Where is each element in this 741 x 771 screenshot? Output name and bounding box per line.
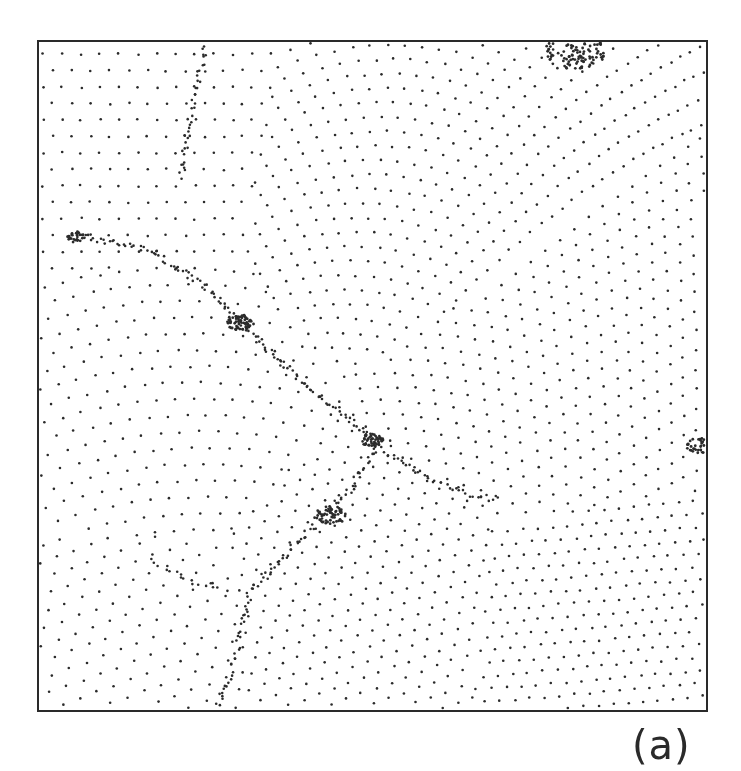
panel-label: (a) <box>632 722 691 768</box>
simulation-figure: (a) <box>0 0 741 771</box>
particle-dot-field <box>0 0 741 771</box>
